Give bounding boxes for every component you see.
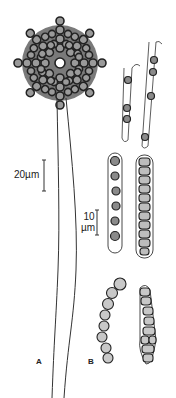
ascus-top-left — [122, 64, 140, 141]
scale-label-10-unit: µm — [81, 223, 95, 233]
stipe — [52, 98, 76, 398]
figure-drawing — [0, 0, 176, 398]
scale-label-20um: 20µm — [14, 170, 39, 180]
panel-label-b: B — [88, 358, 94, 366]
panel-label-a: A — [36, 358, 42, 366]
spore-chain-right — [140, 285, 156, 364]
ascus-middle-left — [108, 153, 122, 253]
ascus-middle-right — [136, 155, 153, 258]
scale-label-10-number: 10 — [83, 212, 95, 222]
scale-bar-10um — [95, 210, 99, 235]
conidial-head — [14, 17, 106, 109]
spore-chain-left — [97, 278, 126, 363]
scale-bar-20um — [42, 160, 46, 191]
